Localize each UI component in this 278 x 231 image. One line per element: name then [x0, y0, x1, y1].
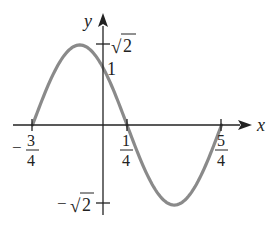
plot: x y − 3 4 1 4 5 4 √ 2 1 − √ 2 — [0, 0, 278, 231]
svg-text:−: − — [57, 194, 67, 213]
y-axis-arrow-icon — [98, 13, 108, 27]
svg-text:2: 2 — [82, 195, 91, 215]
x-tick-label-neg-3-4: − 3 4 — [12, 132, 39, 169]
svg-text:5: 5 — [217, 132, 225, 149]
svg-text:4: 4 — [122, 152, 130, 169]
svg-text:3: 3 — [27, 132, 35, 149]
svg-text:−: − — [12, 138, 22, 157]
y-tick-label-1: 1 — [107, 59, 116, 79]
svg-text:2: 2 — [123, 36, 132, 56]
y-axis-label: y — [82, 11, 92, 31]
svg-text:1: 1 — [122, 132, 130, 149]
svg-text:4: 4 — [217, 152, 225, 169]
svg-text:√: √ — [111, 36, 122, 57]
y-tick-label-neg-sqrt2: − √ 2 — [57, 193, 94, 216]
y-tick-label-sqrt2: √ 2 — [111, 34, 136, 57]
svg-text:4: 4 — [27, 152, 35, 169]
x-tick-label-5-4: 5 4 — [215, 132, 228, 169]
svg-text:√: √ — [70, 195, 81, 216]
x-axis-label: x — [256, 115, 265, 135]
x-axis-arrow-icon — [238, 120, 252, 130]
